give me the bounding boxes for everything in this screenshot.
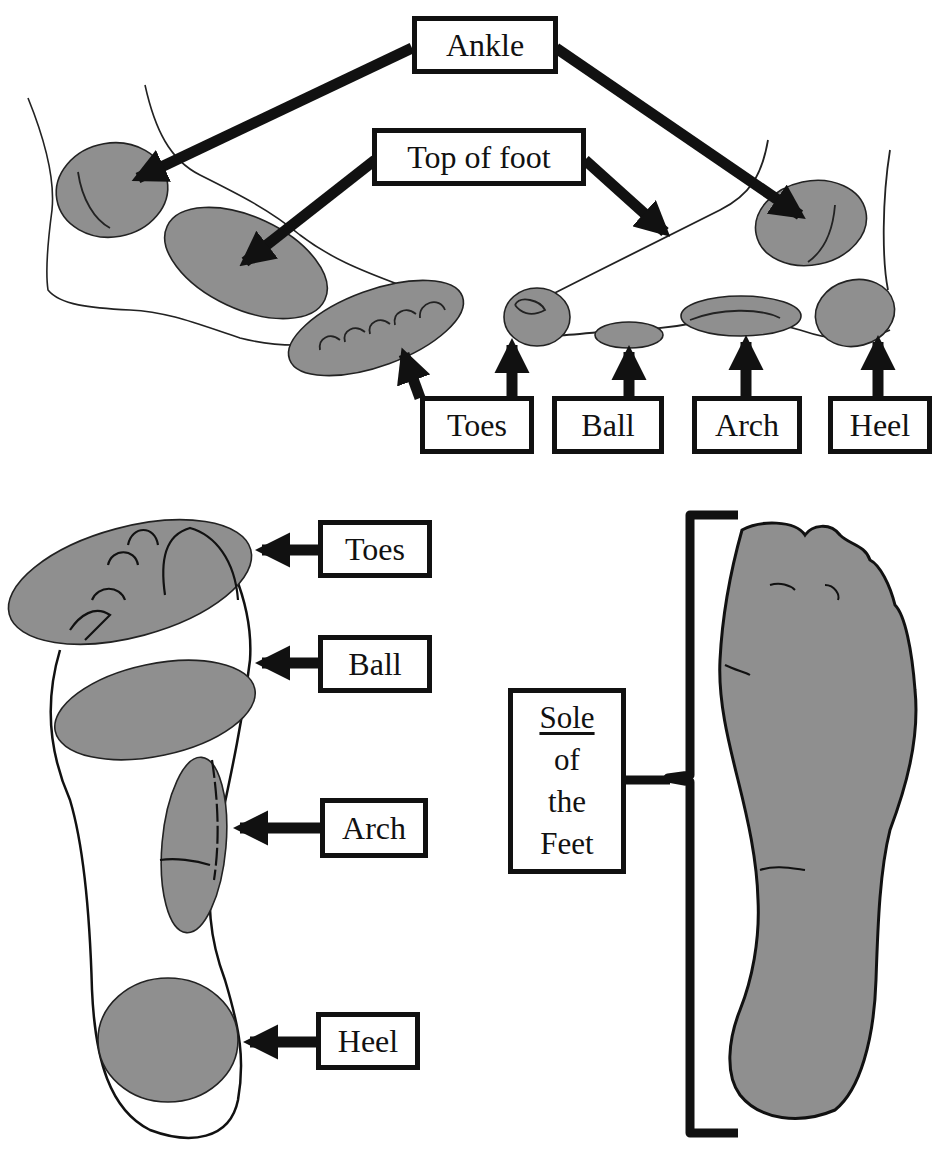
ankle-region-left xyxy=(49,134,176,246)
side-view-regions xyxy=(504,170,902,355)
top-of-foot-label: Top of foot xyxy=(372,128,586,186)
bottom-left-arrows xyxy=(240,550,320,1042)
toes-region-sole xyxy=(0,497,265,668)
sole-label-line4: Feet xyxy=(540,823,593,865)
ball-region-sole xyxy=(46,644,265,776)
arch-label-sole: Arch xyxy=(320,798,428,858)
ball-label-sole: Ball xyxy=(318,635,432,693)
sole-filled-right xyxy=(720,523,916,1118)
toes-label-top: Toes xyxy=(420,396,534,454)
heel-label-sole: Heel xyxy=(316,1012,420,1070)
heel-label-top: Heel xyxy=(828,396,932,454)
heel-region-right xyxy=(808,271,902,355)
heel-region-sole xyxy=(98,978,238,1102)
top-of-foot-arrow-left xyxy=(245,160,375,262)
top-of-foot-arrow-right xyxy=(585,160,665,232)
arch-label-top: Arch xyxy=(692,396,802,454)
ball-region-right xyxy=(595,322,663,348)
arch-region-sole xyxy=(154,755,233,936)
toes-label-sole: Toes xyxy=(318,520,432,578)
ball-label-top: Ball xyxy=(552,396,664,454)
sole-label-line1: Sole xyxy=(539,697,594,739)
sole-label-line2: of xyxy=(554,739,580,781)
toes-region-right xyxy=(504,288,570,346)
toes-arrow-left xyxy=(404,354,420,398)
ankle-label: Ankle xyxy=(412,16,558,74)
sole-of-the-feet-label: Sole of the Feet xyxy=(508,688,626,874)
bottom-left-regions xyxy=(0,497,265,1102)
ankle-arrow-right xyxy=(556,48,800,215)
sole-label-line3: the xyxy=(548,781,586,823)
